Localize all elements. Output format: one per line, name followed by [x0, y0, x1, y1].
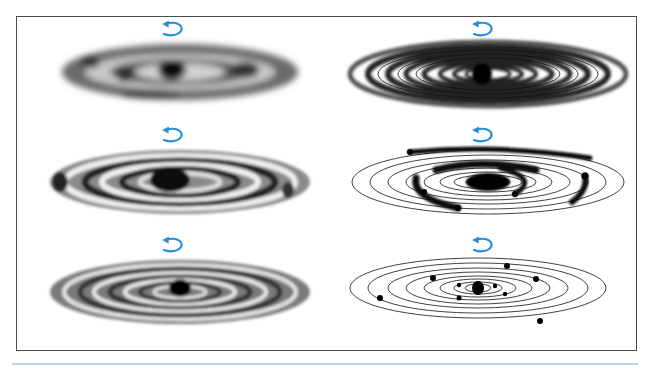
- panel-diffuse-cloud: [30, 34, 330, 144]
- panel-planetary-system: [340, 250, 640, 360]
- panel-banded-disk: [30, 250, 330, 360]
- panel-concentric-rings: [340, 34, 640, 144]
- panel-orbits-with-arcs: [340, 140, 640, 250]
- bottom-divider: [12, 363, 638, 365]
- panel-clumpy-rings: [30, 140, 330, 250]
